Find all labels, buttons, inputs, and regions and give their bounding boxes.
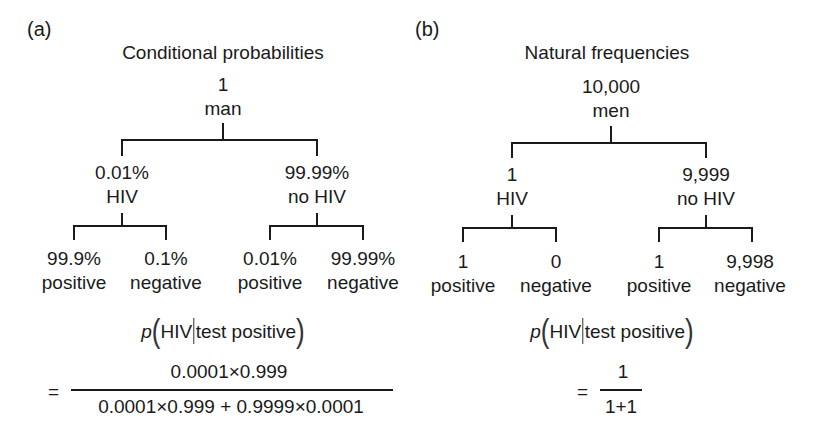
leaf-value: 1: [654, 251, 665, 273]
branch-label: HIV: [496, 188, 528, 210]
formula-event: HIV: [550, 321, 582, 342]
panel-title: Natural frequencies: [525, 42, 690, 64]
leaf-label: negative: [520, 275, 592, 297]
leaf-label: negative: [714, 275, 786, 297]
leaf-label: positive: [627, 275, 691, 297]
leaf-value: 99.99%: [331, 248, 395, 270]
branch-label: HIV: [106, 186, 138, 208]
formula-denominator: 0.0001×0.999 + 0.9999×0.0001: [98, 396, 364, 418]
branch-value: 9,999: [682, 164, 730, 186]
leaf-label: negative: [327, 272, 399, 294]
formula-numerator: 0.0001×0.999: [171, 361, 288, 383]
leaf-value: 0.1%: [144, 248, 187, 270]
leaf-value: 9,998: [726, 251, 774, 273]
branch-value: 1: [507, 164, 518, 186]
fraction-bar: [71, 389, 393, 391]
formula-denominator: 1+1: [605, 396, 637, 418]
formula-lhs: p(HIVtest positive): [530, 318, 693, 344]
formula-p: p: [141, 321, 152, 342]
leaf-label: positive: [42, 272, 106, 294]
leaf-label: positive: [431, 275, 495, 297]
branch-label: no HIV: [288, 186, 346, 208]
panel-label: (b): [415, 18, 439, 40]
bracket-b-hiv: [463, 215, 556, 242]
leaf-value: 99.9%: [47, 248, 101, 270]
bracket-b-nohiv: [659, 215, 752, 242]
root-label: man: [205, 98, 242, 120]
formula-equals: =: [577, 381, 588, 403]
formula-equals: =: [48, 381, 59, 403]
leaf-value: 0.01%: [243, 248, 297, 270]
branch-value: 0.01%: [95, 162, 149, 184]
leaf-value: 0: [551, 251, 562, 273]
formula-numerator: 1: [618, 361, 629, 383]
bracket-a-hiv: [74, 213, 166, 240]
bracket-a-nohiv: [270, 213, 363, 240]
formula-condition: test positive: [196, 321, 296, 342]
bracket-a-root: [122, 123, 317, 156]
formula-condition: test positive: [585, 321, 685, 342]
tree-connectors: [0, 0, 819, 438]
panel-label: (a): [27, 18, 51, 40]
formula-event: HIV: [161, 321, 193, 342]
panel-title: Conditional probabilities: [122, 42, 324, 64]
branch-label: no HIV: [677, 188, 735, 210]
bracket-b-root: [512, 126, 706, 158]
formula-p: p: [530, 321, 541, 342]
formula-lhs: p(HIVtest positive): [141, 318, 304, 344]
leaf-label: positive: [238, 272, 302, 294]
fraction-bar: [600, 389, 642, 391]
leaf-value: 1: [458, 251, 469, 273]
root-value: 1: [218, 74, 229, 96]
leaf-label: negative: [130, 272, 202, 294]
branch-value: 99.99%: [285, 162, 349, 184]
root-label: men: [593, 100, 630, 122]
root-value: 10,000: [582, 76, 640, 98]
